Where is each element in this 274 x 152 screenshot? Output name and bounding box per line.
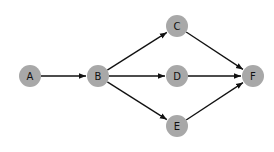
node-label: A (27, 71, 34, 82)
node-c: C (166, 15, 188, 37)
graph-canvas: ABCDEF (0, 0, 274, 152)
node-f: F (242, 65, 264, 87)
node-label: F (250, 71, 256, 82)
node-a: A (19, 65, 41, 87)
edges-layer (41, 32, 243, 120)
node-label: E (174, 121, 180, 132)
edge-c-f (186, 32, 243, 69)
graph-svg: ABCDEF (0, 0, 274, 152)
node-label: C (174, 21, 181, 32)
node-b: B (87, 65, 109, 87)
edge-e-f (186, 83, 243, 120)
edge-b-e (107, 82, 167, 120)
node-label: D (173, 71, 181, 82)
node-d: D (166, 65, 188, 87)
edge-b-c (107, 32, 167, 70)
node-e: E (166, 115, 188, 137)
node-label: B (95, 71, 102, 82)
